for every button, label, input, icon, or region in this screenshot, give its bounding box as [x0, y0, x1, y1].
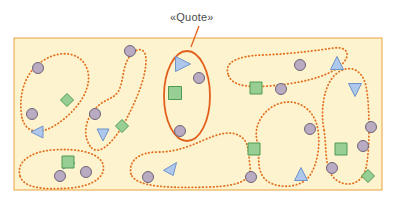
shape-circle[interactable]	[327, 163, 338, 174]
shape-circle[interactable]	[143, 172, 154, 183]
cluster-diagram	[0, 0, 402, 205]
shape-circle[interactable]	[305, 124, 316, 135]
shape-circle[interactable]	[55, 171, 66, 182]
shape-circle[interactable]	[246, 172, 257, 183]
shape-circle[interactable]	[33, 63, 44, 74]
shape-circle[interactable]	[175, 126, 186, 137]
shape-circle[interactable]	[27, 109, 38, 120]
shape-circle[interactable]	[366, 122, 377, 133]
quote-label: «Quote»	[170, 11, 214, 24]
shape-circle[interactable]	[90, 109, 101, 120]
shape-circle[interactable]	[125, 46, 136, 57]
shape-square[interactable]	[335, 143, 347, 155]
shape-square[interactable]	[169, 87, 182, 100]
shape-circle[interactable]	[295, 60, 306, 71]
shape-circle[interactable]	[81, 167, 92, 178]
diagram-canvas-root: «Quote»	[0, 0, 402, 205]
shape-circle[interactable]	[276, 84, 287, 95]
shape-square[interactable]	[62, 156, 74, 168]
shape-square[interactable]	[248, 143, 260, 155]
shape-circle[interactable]	[194, 73, 205, 84]
shape-square[interactable]	[250, 82, 262, 94]
shape-circle[interactable]	[358, 141, 369, 152]
